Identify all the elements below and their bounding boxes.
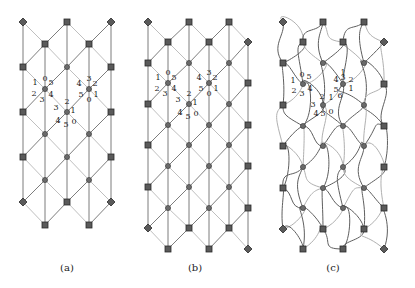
- port-label: 3: [175, 95, 180, 104]
- circle-node: [320, 185, 325, 190]
- lattice-figure: 015234342501231450 (a) 01523434250123145…: [0, 0, 415, 288]
- square-node: [86, 41, 92, 47]
- port-label: 4: [196, 73, 201, 82]
- port-label: 3: [310, 100, 315, 109]
- lattice-edge: [209, 125, 229, 145]
- tangled-edge: [303, 188, 323, 208]
- square-node: [245, 205, 251, 211]
- square-node: [280, 143, 286, 149]
- tangled-edge: [323, 167, 345, 188]
- circle-node: [340, 164, 345, 169]
- port-label: 1: [192, 98, 197, 107]
- port-label: 0: [42, 74, 47, 83]
- square-node: [381, 164, 387, 170]
- lattice-edge: [168, 187, 189, 208]
- tangled-edge: [298, 167, 303, 208]
- circle-node: [165, 163, 170, 168]
- tangled-edge: [318, 22, 323, 63]
- square-node: [20, 109, 26, 115]
- port-label: 0: [193, 109, 198, 118]
- square-node: [320, 226, 326, 232]
- circle-node: [64, 64, 69, 69]
- port-label: 5: [48, 78, 53, 87]
- lattice-edge: [89, 157, 111, 180]
- lattice-edge: [89, 89, 111, 112]
- square-node: [145, 101, 151, 107]
- circle-node: [186, 101, 191, 106]
- square-node: [108, 64, 114, 70]
- port-label: 2: [64, 97, 69, 106]
- square-node: [340, 39, 346, 45]
- square-node: [145, 60, 151, 66]
- port-label: 1: [155, 73, 160, 82]
- tangled-edge: [322, 188, 323, 229]
- panel-c-edges: [277, 17, 388, 249]
- circle-node: [226, 142, 231, 147]
- port-label: 6: [337, 91, 342, 100]
- circle-node: [300, 123, 305, 128]
- lattice-edge: [189, 166, 209, 187]
- port-label: 3: [206, 68, 211, 77]
- square-node: [381, 205, 387, 211]
- port-label: 0: [299, 70, 304, 79]
- lattice-edge: [89, 180, 111, 202]
- square-node: [381, 81, 387, 87]
- lattice-edge: [67, 202, 89, 225]
- tangled-edge: [343, 142, 364, 167]
- lattice-edge: [209, 166, 229, 187]
- port-label: 0: [165, 68, 170, 77]
- lattice-edge: [67, 44, 89, 67]
- square-node: [64, 19, 70, 25]
- circle-node: [206, 163, 211, 168]
- square-node: [165, 39, 171, 45]
- tangled-edge: [364, 61, 384, 84]
- tangled-edge: [303, 126, 304, 167]
- lattice-edge: [229, 42, 248, 63]
- lattice-edge: [209, 83, 229, 104]
- circle-node: [361, 185, 366, 190]
- port-label: 1: [348, 84, 353, 93]
- lattice-edge: [148, 208, 168, 228]
- port-label: 2: [92, 79, 97, 88]
- circle-node: [42, 131, 47, 136]
- circle-node: [300, 81, 305, 86]
- circle-node: [300, 164, 305, 169]
- lattice-edge: [89, 202, 111, 225]
- square-node: [20, 64, 26, 70]
- lattice-edge: [168, 166, 189, 187]
- lattice-edge: [89, 134, 111, 157]
- square-node: [280, 60, 286, 66]
- square-node: [20, 154, 26, 160]
- square-node: [280, 185, 286, 191]
- circle-node: [165, 80, 170, 85]
- lattice-edge: [67, 112, 89, 134]
- square-node: [186, 19, 192, 25]
- circle-node: [186, 184, 191, 189]
- circle-node: [42, 177, 47, 182]
- lattice-edge: [23, 44, 45, 67]
- circle-node: [361, 60, 366, 65]
- tangled-edge: [382, 205, 388, 249]
- lattice-edge: [209, 187, 229, 208]
- panel-b-straight-lattice: 015234342501231450 (b): [144, 18, 252, 273]
- tangled-edge: [278, 22, 284, 63]
- port-label: 3: [299, 89, 304, 98]
- port-label: 2: [186, 89, 191, 98]
- port-label: 5: [198, 84, 203, 93]
- tangled-edge: [343, 105, 364, 126]
- circle-node: [165, 205, 170, 210]
- square-node: [226, 19, 232, 25]
- lattice-edge: [23, 134, 45, 157]
- tangled-edge: [364, 143, 384, 167]
- lattice-edge: [209, 104, 229, 125]
- square-node: [245, 122, 251, 128]
- tangled-edge: [277, 105, 283, 146]
- square-node: [226, 225, 232, 231]
- panel-a-caption: (a): [60, 262, 74, 273]
- port-label: 1: [32, 78, 37, 87]
- port-label: 2: [212, 73, 217, 82]
- port-label: 5: [171, 73, 176, 82]
- lattice-edge: [67, 157, 89, 180]
- lattice-edge: [23, 180, 45, 202]
- circle-node: [86, 131, 91, 136]
